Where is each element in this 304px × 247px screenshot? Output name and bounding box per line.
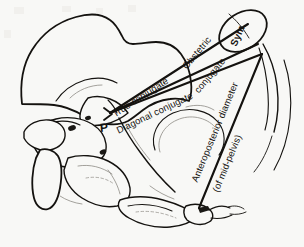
ap-diameter-line <box>199 54 262 208</box>
acetabulum <box>153 105 224 155</box>
pelvis-diagram-figure: .ink{fill:none;stroke:#14120f;stroke-lin… <box>0 0 304 247</box>
sacrum-and-coccyx <box>24 115 246 227</box>
pubic-ramus-contours <box>254 44 291 172</box>
pelvis-line-drawing: .ink{fill:none;stroke:#14120f;stroke-lin… <box>0 0 304 247</box>
